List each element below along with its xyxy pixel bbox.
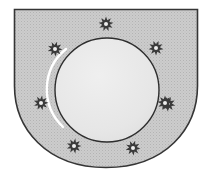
star-center xyxy=(53,47,57,51)
coat-of-arms-illustration xyxy=(0,0,211,176)
star-center xyxy=(104,22,108,26)
star-center xyxy=(131,146,135,150)
star-center xyxy=(72,144,76,148)
circle-outline xyxy=(55,38,159,142)
star-center xyxy=(163,101,167,105)
star-center xyxy=(39,101,43,105)
star-center xyxy=(154,46,158,50)
shield xyxy=(15,10,198,168)
coat-of-arms-canvas: Coat of arms xyxy=(0,0,211,176)
